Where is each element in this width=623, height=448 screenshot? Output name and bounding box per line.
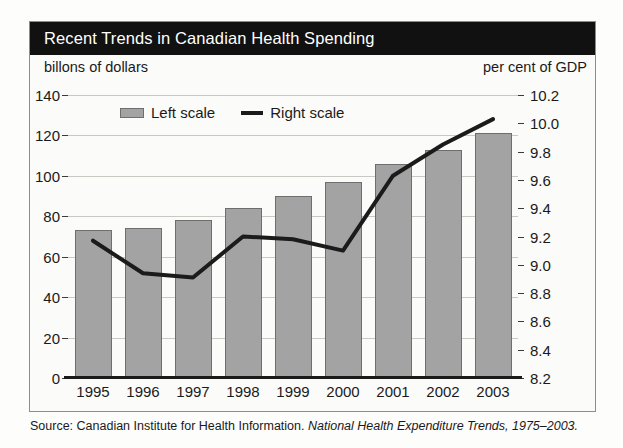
right-scale-line: [93, 119, 493, 277]
right-axis-caption: per cent of GDP: [483, 59, 587, 75]
right-tick: [518, 152, 524, 153]
right-tick-label: 9.6: [530, 173, 551, 188]
x-tick-label: 1999: [276, 383, 309, 400]
x-axis-tick-labels: 199519961997199819992000200120022003: [68, 383, 518, 405]
left-tick-label: 120: [16, 128, 60, 143]
left-tick-label: 0: [16, 371, 60, 386]
right-tick-label: 8.8: [530, 286, 551, 301]
chart-title: Recent Trends in Canadian Health Spendin…: [30, 29, 375, 48]
source-citation: National Health Expenditure Trends, 1975…: [308, 419, 578, 433]
right-tick-label: 8.6: [530, 314, 551, 329]
right-tick: [518, 95, 524, 96]
right-tick-label: 9.2: [530, 230, 551, 245]
axis-baseline: [64, 376, 522, 379]
right-tick-label: 10.2: [530, 88, 559, 103]
x-tick-label: 1998: [226, 383, 259, 400]
plot-area: [68, 95, 518, 378]
left-tick-label: 40: [16, 290, 60, 305]
x-tick-label: 1997: [176, 383, 209, 400]
right-tick-label: 8.2: [530, 371, 551, 386]
right-tick: [518, 237, 524, 238]
right-tick: [518, 293, 524, 294]
right-tick: [518, 123, 524, 124]
x-tick-label: 2001: [376, 383, 409, 400]
right-tick: [518, 265, 524, 266]
line-series: [68, 95, 518, 378]
left-axis-caption: billons of dollars: [44, 59, 148, 75]
right-tick-label: 9.4: [530, 201, 551, 216]
left-tick-label: 60: [16, 250, 60, 265]
source-note: Source: Canadian Institute for Health In…: [30, 419, 578, 433]
x-tick-label: 1996: [126, 383, 159, 400]
right-tick-label: 10.0: [530, 116, 559, 131]
x-tick-label: 2002: [426, 383, 459, 400]
x-tick-label: 1995: [76, 383, 109, 400]
x-tick-label: 2003: [476, 383, 509, 400]
right-tick: [518, 208, 524, 209]
left-tick-label: 140: [16, 88, 60, 103]
right-tick-label: 9.0: [530, 258, 551, 273]
right-tick: [518, 180, 524, 181]
right-tick-label: 8.4: [530, 343, 551, 358]
left-tick-label: 80: [16, 209, 60, 224]
left-tick-label: 100: [16, 169, 60, 184]
right-tick-label: 9.8: [530, 145, 551, 160]
right-tick: [518, 321, 524, 322]
x-tick-label: 2000: [326, 383, 359, 400]
left-tick-label: 20: [16, 331, 60, 346]
source-prefix: Source: Canadian Institute for Health In…: [30, 419, 304, 433]
figure-page: Recent Trends in Canadian Health Spendin…: [0, 0, 623, 448]
right-tick: [518, 350, 524, 351]
chart-title-banner: Recent Trends in Canadian Health Spendin…: [30, 22, 595, 55]
